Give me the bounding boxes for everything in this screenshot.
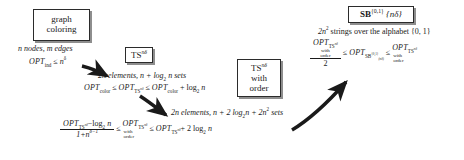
ts-left-params: 2n elements, n + log2 n sets	[98, 71, 186, 81]
node-ts-nd-order[interactable]: TSnδ with order	[237, 59, 281, 97]
node-ts-nd-order-line-2: with	[242, 73, 276, 83]
ts-order-middle-term: OPTTSnδ with order	[123, 119, 148, 139]
node-graph-coloring[interactable]: graph coloring	[33, 9, 90, 41]
node-ts-nd-order-line-3: order	[242, 83, 276, 93]
node-graph-coloring-line-1: graph	[38, 14, 85, 24]
node-ts-nd-left-label: TSnδ	[130, 50, 148, 60]
sb-fraction: OPTTSnδwithorder 2	[310, 38, 341, 69]
sb-inequality: OPTTSnδwithorder 2 ≤ OPTSB{0,1}(nδ) ≤ OP…	[310, 38, 417, 69]
sb-params: 2n2 strings over the alphabet {0, 1}	[318, 27, 431, 37]
ts-order-inequality: OPTTSnδ−log2 n 1+nδ−1 ≤ OPTTSnδ with ord…	[60, 119, 212, 139]
ts-order-fraction-numerator: OPTTSnδ−log2 n	[60, 119, 114, 129]
ts-left-inequality: OPTcolor ≤ OPTTSnδ ≤ OPTcolor + log2 n	[84, 83, 205, 93]
graph-coloring-params: n nodes, m edges	[18, 44, 73, 54]
sb-right-term: OPTTSnδ with order	[392, 43, 417, 63]
node-ts-nd-order-line-1: TSnδ	[242, 63, 276, 73]
ts-order-params: 2n elements, n + 2 log2n + 2n2 sets	[171, 108, 283, 118]
sb-fraction-numerator: OPTTSnδwithorder	[310, 38, 341, 58]
node-graph-coloring-line-2: coloring	[38, 24, 85, 34]
sb-fraction-denominator: 2	[310, 58, 341, 69]
arrow-ts-order-to-sb	[292, 82, 346, 130]
ts-order-fraction-denominator: 1+nδ−1	[60, 129, 114, 140]
diagram-canvas: graph coloring n nodes, m edges OPTind ≤…	[0, 0, 464, 160]
graph-coloring-bound: OPTind ≤ nδ	[29, 57, 66, 67]
node-ts-nd-left[interactable]: TSnδ	[125, 47, 153, 63]
arrow-ts-to-ts-order	[140, 96, 166, 115]
node-sb-01[interactable]: SB{0,1} {nδ}	[348, 6, 414, 23]
ts-order-fraction: OPTTSnδ−log2 n 1+nδ−1	[60, 119, 114, 139]
node-sb-01-label: SB{0,1} {nδ}	[353, 9, 409, 19]
